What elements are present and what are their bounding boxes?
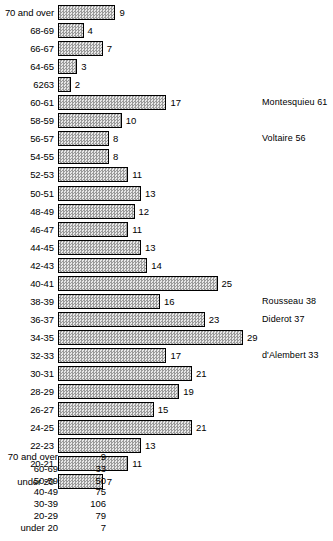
category-label: 54-55 xyxy=(0,148,54,165)
bar xyxy=(58,95,166,110)
bar xyxy=(58,240,141,255)
category-label: 34-35 xyxy=(0,329,54,346)
category-label: 46-47 xyxy=(0,221,54,238)
category-label: 42-43 xyxy=(0,257,54,274)
bar-value-label: 11 xyxy=(132,221,142,238)
table-row: 20-2979 xyxy=(0,510,180,522)
bar-row: 50-5113 xyxy=(0,185,333,203)
bar-value-label: 7 xyxy=(107,40,112,57)
chart-annotation: d'Alembert 33 xyxy=(262,347,319,364)
bar-row: 42-4314 xyxy=(0,257,333,275)
table-row: 30-39106 xyxy=(0,498,180,510)
category-label: 60-61 xyxy=(0,94,54,111)
bar xyxy=(58,384,179,399)
bar-value-label: 15 xyxy=(158,401,169,418)
category-label: 66-67 xyxy=(0,40,54,57)
bar xyxy=(58,41,103,56)
summary-value: 79 xyxy=(62,510,106,522)
table-row: under 207 xyxy=(0,522,180,534)
chart-annotation: Voltaire 56 xyxy=(262,130,306,147)
bar xyxy=(58,420,192,435)
bar xyxy=(58,167,128,182)
category-label: 24-25 xyxy=(0,419,54,436)
bar-row: 64-653 xyxy=(0,58,333,76)
bar xyxy=(58,312,205,327)
category-label: 64-65 xyxy=(0,58,54,75)
bar-row: 62632 xyxy=(0,76,333,94)
category-label: 26-27 xyxy=(0,401,54,418)
bar-row: 24-2521 xyxy=(0,419,333,437)
summary-label: 30-39 xyxy=(0,498,58,510)
bar-row: 46-4711 xyxy=(0,221,333,239)
bar-row: 26-2715 xyxy=(0,401,333,419)
category-label: 48-49 xyxy=(0,203,54,220)
bar-row: 68-694 xyxy=(0,22,333,40)
bar-value-label: 9 xyxy=(119,4,124,21)
bar-row: 30-3121 xyxy=(0,365,333,383)
bar xyxy=(58,186,141,201)
bar-value-label: 13 xyxy=(145,185,156,202)
bar xyxy=(58,330,243,345)
bar-value-label: 8 xyxy=(113,148,118,165)
bar-value-label: 12 xyxy=(139,203,150,220)
category-label: 52-53 xyxy=(0,166,54,183)
bar-row: 58-5910 xyxy=(0,112,333,130)
summary-table: 70 and over960-693350-595040-497530-3910… xyxy=(0,451,180,534)
bar xyxy=(58,204,135,219)
bar xyxy=(58,131,109,146)
category-label: 44-45 xyxy=(0,239,54,256)
bar-row: 52-5311 xyxy=(0,166,333,184)
summary-value: 7 xyxy=(62,522,106,534)
bar xyxy=(58,348,166,363)
category-label: 6263 xyxy=(0,76,54,93)
category-label: 40-41 xyxy=(0,275,54,292)
chart-annotation: Rousseau 38 xyxy=(262,293,316,310)
bar-value-label: 3 xyxy=(81,58,86,75)
category-label: 38-39 xyxy=(0,293,54,310)
summary-value: 33 xyxy=(62,463,106,475)
summary-value: 75 xyxy=(62,486,106,498)
category-label: 50-51 xyxy=(0,185,54,202)
bar-value-label: 10 xyxy=(126,112,137,129)
category-label: 56-57 xyxy=(0,130,54,147)
bar-value-label: 23 xyxy=(209,311,220,328)
bar-value-label: 2 xyxy=(75,76,80,93)
bar-row: 44-4513 xyxy=(0,239,333,257)
summary-label: 50-59 xyxy=(0,475,58,487)
bar-row: 56-578Voltaire 56 xyxy=(0,130,333,148)
chart-annotation: Diderot 37 xyxy=(262,311,305,328)
bar-row: 48-4912 xyxy=(0,203,333,221)
table-row: 50-5950 xyxy=(0,475,180,487)
bar-value-label: 14 xyxy=(151,257,162,274)
category-label: 30-31 xyxy=(0,365,54,382)
bar-row: 70 and over9 xyxy=(0,4,333,22)
bar xyxy=(58,366,192,381)
bar-value-label: 16 xyxy=(164,293,175,310)
bar-row: 34-3529 xyxy=(0,329,333,347)
bar-value-label: 29 xyxy=(247,329,258,346)
summary-label: 20-29 xyxy=(0,510,58,522)
bar-row: 32-3317d'Alembert 33 xyxy=(0,347,333,365)
bar xyxy=(58,59,77,74)
bar-row: 38-3916Rousseau 38 xyxy=(0,293,333,311)
bar xyxy=(58,113,122,128)
bar-value-label: 21 xyxy=(196,419,207,436)
bar xyxy=(58,149,109,164)
bar xyxy=(58,294,160,309)
category-label: 68-69 xyxy=(0,22,54,39)
bar-value-label: 13 xyxy=(145,239,156,256)
bar-value-label: 17 xyxy=(170,94,181,111)
bar-row: 60-6117Montesquieu 61 xyxy=(0,94,333,112)
table-row: 70 and over9 xyxy=(0,451,180,463)
bar xyxy=(58,5,115,20)
bar-value-label: 4 xyxy=(88,22,93,39)
summary-value: 9 xyxy=(62,451,106,463)
category-label: 32-33 xyxy=(0,347,54,364)
summary-value: 50 xyxy=(62,475,106,487)
bar-row: 40-4125 xyxy=(0,275,333,293)
age-distribution-bar-chart: 70 and over968-69466-67764-6536263260-61… xyxy=(0,0,333,541)
bar xyxy=(58,77,71,92)
category-label: 28-29 xyxy=(0,383,54,400)
category-label: 58-59 xyxy=(0,112,54,129)
category-label: 36-37 xyxy=(0,311,54,328)
